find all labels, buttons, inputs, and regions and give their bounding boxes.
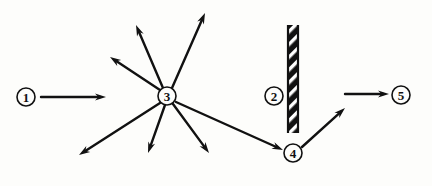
node-1[interactable]: 1: [17, 88, 35, 106]
barrier-layer: [288, 25, 298, 133]
ray-shaft: [150, 105, 165, 147]
ray-shaft: [302, 112, 341, 147]
scattered-ray-3-to-4: [176, 102, 283, 150]
node-2[interactable]: 2: [265, 87, 283, 105]
hatched-barrier: [288, 25, 298, 133]
arrowhead-icon: [110, 57, 121, 66]
outgoing-ray-to-5: [345, 90, 389, 97]
scattered-ray-lower-left: [79, 103, 160, 155]
scattered-ray-up-right: [172, 13, 205, 88]
node-label: 3: [164, 89, 171, 104]
node-5[interactable]: 5: [392, 86, 410, 104]
ray-diagram-canvas: 12345: [0, 0, 432, 186]
node-label: 4: [290, 146, 297, 161]
scattered-ray-down-steep: [148, 105, 165, 153]
ray-shaft: [176, 102, 277, 148]
reflected-ray-4-upward: [302, 108, 345, 147]
barrier-hatch-fill: [288, 25, 298, 133]
ray-shaft: [173, 104, 205, 148]
diagram-svg: 12345: [0, 0, 432, 186]
scattered-ray-down-right: [173, 104, 209, 153]
arrowhead-icon: [79, 146, 90, 155]
node-4[interactable]: 4: [284, 144, 302, 162]
node-label: 2: [271, 89, 278, 104]
node-3[interactable]: 3: [158, 87, 176, 105]
ray-shaft: [172, 19, 203, 88]
incoming-ray-1-to-3: [41, 93, 106, 100]
arrow-layer: [41, 13, 389, 155]
node-label: 5: [398, 88, 405, 103]
scattered-ray-up-left-steep: [136, 25, 163, 88]
node-label: 1: [23, 90, 30, 105]
